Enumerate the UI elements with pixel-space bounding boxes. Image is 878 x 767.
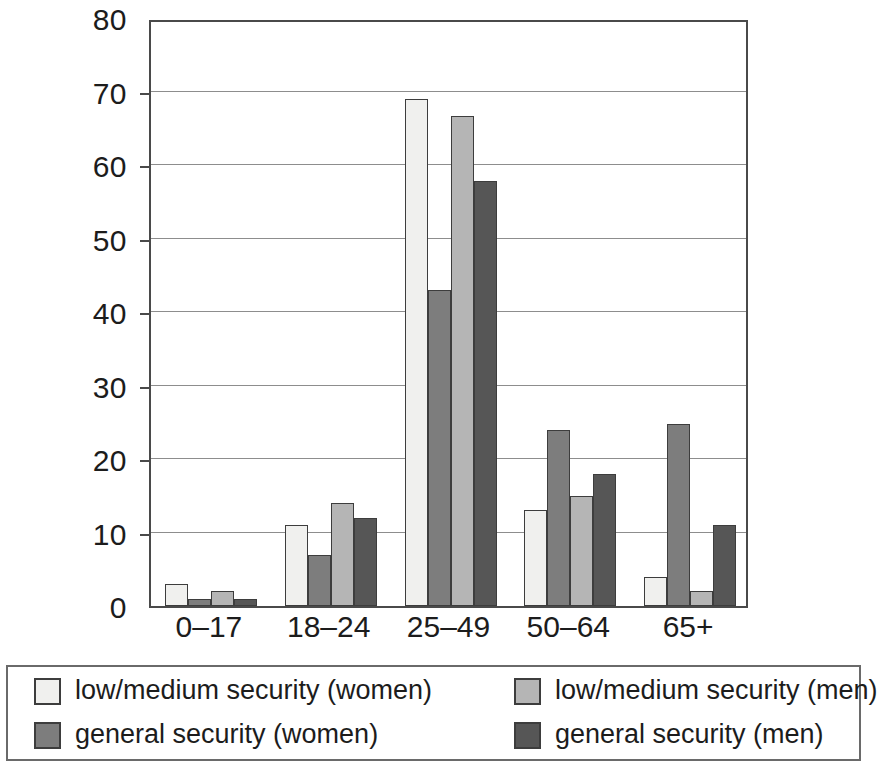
bar (211, 591, 234, 606)
bar (593, 474, 616, 606)
bars (151, 22, 746, 606)
legend-swatch (34, 722, 61, 749)
x-tick-label: 50–64 (527, 612, 610, 642)
y-tick-label: 30 (93, 373, 127, 403)
bar (524, 510, 547, 606)
legend: low/medium security (women)low/medium se… (6, 665, 861, 761)
plot-area (149, 20, 748, 608)
bar (570, 496, 593, 606)
x-tick-label: 25–49 (407, 612, 490, 642)
y-tick-mark (140, 313, 149, 315)
legend-swatch (34, 678, 61, 705)
y-axis: 01020304050607080 (0, 0, 149, 628)
legend-label: low/medium security (women) (75, 676, 432, 706)
y-tick-mark (140, 166, 149, 168)
y-tick-label: 50 (93, 226, 127, 256)
legend-label: low/medium security (men) (555, 676, 878, 706)
legend-label: general security (men) (555, 720, 824, 750)
x-tick-label: 0–17 (176, 612, 243, 642)
legend-grid: low/medium security (women)low/medium se… (8, 667, 859, 759)
grouped-bar-chart: 01020304050607080 0–1718–2425–4950–6465+ (0, 0, 867, 660)
bar (308, 555, 331, 606)
y-tick-mark (140, 460, 149, 462)
y-tick-mark (140, 534, 149, 536)
legend-item: general security (women) (34, 720, 514, 750)
bar (234, 599, 257, 606)
bar (428, 290, 451, 606)
bar (644, 577, 667, 606)
bar (547, 430, 570, 606)
y-tick-label: 70 (93, 79, 127, 109)
bar (331, 503, 354, 606)
y-tick-label: 40 (93, 299, 127, 329)
x-axis: 0–1718–2425–4950–6465+ (149, 612, 748, 656)
bar (474, 181, 497, 606)
bar (354, 518, 377, 606)
bar (713, 525, 736, 606)
x-tick-label: 65+ (663, 612, 714, 642)
legend-item: low/medium security (women) (34, 676, 514, 706)
bar (667, 424, 690, 606)
y-tick-label: 10 (93, 520, 127, 550)
y-tick-label: 20 (93, 446, 127, 476)
y-tick-mark (140, 387, 149, 389)
legend-swatch (514, 722, 541, 749)
legend-swatch (514, 678, 541, 705)
legend-item: low/medium security (men) (514, 676, 878, 706)
y-tick-label: 60 (93, 152, 127, 182)
bar (690, 591, 713, 606)
y-tick-label: 80 (93, 5, 127, 35)
bar (165, 584, 188, 606)
bar (405, 99, 428, 606)
legend-label: general security (women) (75, 720, 378, 750)
bar (188, 599, 211, 606)
y-tick-label: 0 (110, 593, 127, 623)
y-tick-mark (140, 240, 149, 242)
legend-item: general security (men) (514, 720, 878, 750)
x-tick-label: 18–24 (287, 612, 370, 642)
bar (451, 116, 474, 606)
bar (285, 525, 308, 606)
y-tick-mark (140, 93, 149, 95)
